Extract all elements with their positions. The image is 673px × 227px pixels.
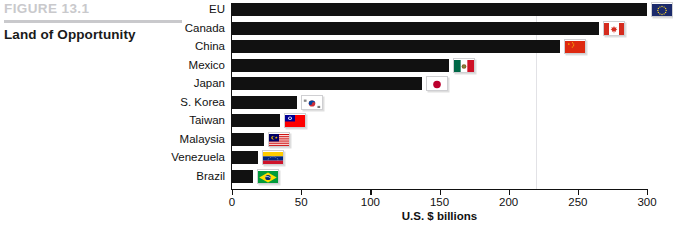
bar-row: S. Korea	[232, 96, 297, 109]
bar-row: Brazil	[232, 170, 253, 183]
bar-malaysia[interactable]	[232, 133, 264, 146]
flag-icon-brazil	[257, 169, 279, 184]
category-label-malaysia: Malaysia	[180, 132, 225, 146]
flag-icon-s-korea	[301, 95, 323, 110]
flag-icon-venezuela	[262, 150, 284, 165]
bar-row: Mexico	[232, 59, 449, 72]
x-tick-150	[440, 189, 441, 195]
x-tick-200	[509, 189, 510, 195]
x-tick-label-100: 100	[361, 196, 380, 208]
bar-china[interactable]	[232, 40, 560, 53]
bar-venezuela[interactable]	[232, 151, 258, 164]
flag-icon-taiwan	[284, 113, 306, 128]
x-tick-label-50: 50	[295, 196, 308, 208]
category-label-brazil: Brazil	[196, 169, 225, 183]
x-tick-label-150: 150	[430, 196, 449, 208]
bar-row: EU	[232, 3, 647, 16]
x-tick-label-200: 200	[499, 196, 518, 208]
category-label-venezuela: Venezuela	[171, 150, 225, 164]
bar-mexico[interactable]	[232, 59, 449, 72]
flag-icon-china	[564, 39, 586, 54]
flag-icon-malaysia	[268, 132, 290, 147]
bar-row: China	[232, 40, 560, 53]
x-axis-title: U.S. $ billions	[232, 210, 647, 222]
x-tick-label-300: 300	[637, 196, 656, 208]
category-label-taiwan: Taiwan	[189, 113, 225, 127]
category-label-canada: Canada	[185, 21, 225, 35]
flag-icon-japan	[426, 76, 448, 91]
bar-row: Japan	[232, 77, 422, 90]
x-tick-250	[578, 189, 579, 195]
bar-row: Canada	[232, 22, 599, 35]
bar-taiwan[interactable]	[232, 114, 280, 127]
bar-canada[interactable]	[232, 22, 599, 35]
x-tick-300	[647, 189, 648, 195]
x-tick-0	[232, 189, 233, 195]
bar-brazil[interactable]	[232, 170, 253, 183]
bar-s-korea[interactable]	[232, 96, 297, 109]
category-label-mexico: Mexico	[189, 58, 225, 72]
category-label-japan: Japan	[194, 76, 225, 90]
category-label-china: China	[195, 39, 225, 53]
bar-eu[interactable]	[232, 3, 647, 16]
bar-row: Taiwan	[232, 114, 280, 127]
x-tick-100	[370, 189, 371, 195]
flag-icon-mexico	[453, 58, 475, 73]
bar-japan[interactable]	[232, 77, 422, 90]
category-label-eu: EU	[209, 2, 225, 16]
x-tick-label-0: 0	[229, 196, 235, 208]
flag-icon-canada	[603, 21, 625, 36]
bar-row: Venezuela	[232, 151, 258, 164]
x-tick-50	[301, 189, 302, 195]
category-label-s-korea: S. Korea	[180, 95, 225, 109]
flag-icon-eu	[651, 2, 673, 17]
bar-row: Malaysia	[232, 133, 264, 146]
x-tick-label-250: 250	[568, 196, 587, 208]
